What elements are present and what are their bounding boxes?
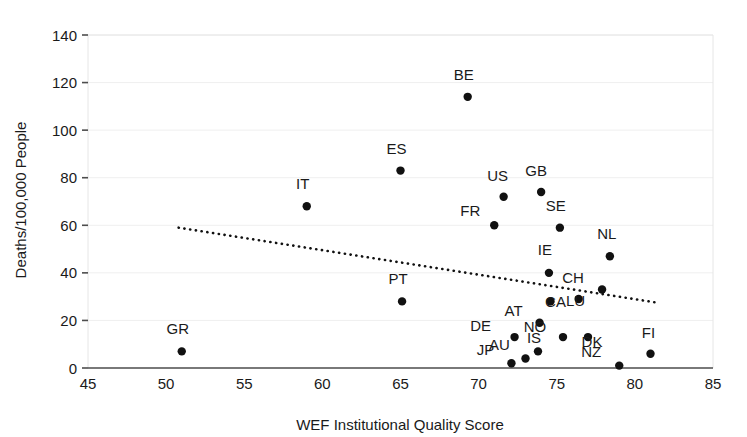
data-point-marker — [499, 193, 507, 201]
data-point-marker — [463, 93, 471, 101]
data-point-marker — [559, 333, 567, 341]
data-point-label: CA — [545, 293, 566, 310]
x-tick-label: 65 — [392, 375, 409, 392]
data-point-label: PT — [388, 270, 407, 287]
x-tick-label: 85 — [705, 375, 722, 392]
y-tick-label: 100 — [52, 122, 77, 139]
y-tick-label: 40 — [60, 264, 77, 281]
data-point-marker — [396, 166, 404, 174]
y-tick-label: 140 — [52, 27, 77, 44]
data-point-marker — [537, 188, 545, 196]
y-tick-label: 120 — [52, 74, 77, 91]
plot-frame — [88, 35, 713, 368]
x-tick-label: 70 — [470, 375, 487, 392]
data-point-label: GR — [167, 320, 190, 337]
data-point-label: FR — [460, 202, 480, 219]
x-tick-label: 45 — [80, 375, 97, 392]
data-point-label: ES — [386, 140, 406, 157]
x-axis-title: WEF Institutional Quality Score — [296, 416, 504, 433]
data-point-label: IE — [538, 241, 552, 258]
data-point-marker — [646, 350, 654, 358]
x-tick-label: 60 — [314, 375, 331, 392]
data-point-label: US — [487, 167, 508, 184]
y-tick-label: 0 — [69, 360, 77, 377]
data-points: GRITESPTBEFRUSJPDEAUISATGBIECASENOLUDKCH… — [167, 66, 656, 370]
x-tick-label: 50 — [158, 375, 175, 392]
y-tick-label: 60 — [60, 217, 77, 234]
data-point-label: CH — [562, 269, 584, 286]
data-point-label: LU — [566, 292, 585, 309]
chart-canvas: 020406080100120140 455055606570758085 GR… — [0, 0, 747, 437]
data-point-marker — [598, 285, 606, 293]
data-point-label: SE — [546, 197, 566, 214]
y-axis-title: Deaths/100,000 People — [12, 122, 29, 279]
data-point-marker — [398, 297, 406, 305]
data-point-marker — [178, 347, 186, 355]
data-point-label: AT — [505, 302, 523, 319]
data-point-marker — [490, 221, 498, 229]
x-tick-label: 80 — [627, 375, 644, 392]
data-point-marker — [556, 223, 564, 231]
data-point-marker — [615, 361, 623, 369]
data-point-label: GB — [525, 162, 547, 179]
x-tick-label: 75 — [548, 375, 565, 392]
data-point-label: NL — [597, 225, 616, 242]
y-tick-label: 80 — [60, 169, 77, 186]
data-point-label: DE — [470, 317, 491, 334]
data-point-marker — [606, 252, 614, 260]
data-point-label: IT — [296, 175, 309, 192]
data-point-label: BE — [454, 66, 474, 83]
data-point-marker — [507, 359, 515, 367]
data-point-marker — [303, 202, 311, 210]
y-tick-label: 20 — [60, 312, 77, 329]
x-axis-ticks: 455055606570758085 — [80, 375, 722, 392]
data-point-marker — [545, 269, 553, 277]
data-point-label: NO — [524, 318, 547, 335]
data-point-marker — [534, 347, 542, 355]
y-axis-ticks: 020406080100120140 — [52, 27, 88, 377]
data-point-marker — [521, 354, 529, 362]
data-point-label: AU — [489, 336, 510, 353]
x-tick-label: 55 — [236, 375, 253, 392]
data-point-marker — [510, 333, 518, 341]
scatter-chart-figure: 020406080100120140 455055606570758085 GR… — [0, 0, 747, 437]
data-point-label: NZ — [581, 343, 601, 360]
data-point-label: FI — [642, 324, 655, 341]
